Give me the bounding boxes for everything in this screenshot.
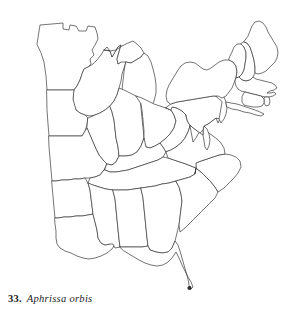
us-states-map-svg bbox=[0, 0, 303, 292]
map-canvas bbox=[0, 0, 303, 292]
state-arkansas bbox=[52, 178, 93, 218]
record-dot-south-florida-record bbox=[187, 286, 191, 290]
state-rhode-island bbox=[264, 97, 270, 106]
species-name: Aphrissa orbis bbox=[27, 292, 93, 306]
state-new-york bbox=[166, 60, 237, 104]
figure-number: 33. bbox=[8, 292, 22, 306]
state-massachusetts bbox=[235, 77, 277, 97]
distribution-map-figure: 33. Aphrissa orbis bbox=[0, 0, 303, 323]
figure-caption: 33. Aphrissa orbis bbox=[8, 292, 303, 323]
